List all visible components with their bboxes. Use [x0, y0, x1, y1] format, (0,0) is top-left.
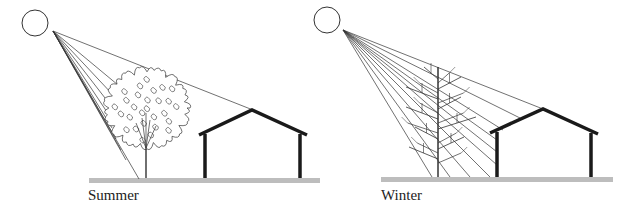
sun-rays — [343, 30, 543, 177]
twig — [461, 147, 467, 153]
branch — [438, 153, 461, 163]
house-roof — [199, 110, 307, 135]
sun-ray — [53, 31, 111, 118]
sun-ray — [343, 30, 543, 109]
twig — [464, 87, 470, 93]
sun-shading-diagram — [0, 0, 633, 213]
house-icon — [199, 110, 307, 178]
ground — [381, 177, 613, 182]
sun-ray — [343, 30, 450, 177]
summer-label: Summer — [88, 187, 139, 204]
sun-ray — [343, 30, 497, 152]
sun-ray — [343, 30, 490, 177]
sun-icon — [314, 7, 340, 33]
twig — [411, 137, 417, 143]
twig — [414, 97, 420, 103]
branch — [438, 113, 464, 123]
sun-ray — [343, 30, 470, 177]
twig — [414, 77, 420, 83]
winter-panel — [314, 7, 613, 182]
sun-ray — [343, 30, 503, 130]
tree-crown — [104, 67, 191, 150]
sun-ray — [53, 31, 114, 96]
sun-ray — [343, 30, 497, 165]
leafy-tree-icon — [104, 67, 191, 178]
house-roof — [490, 109, 598, 134]
sun-ray — [343, 30, 497, 140]
house-icon — [490, 109, 598, 177]
summer-panel — [22, 10, 320, 183]
sun-ray — [53, 31, 118, 85]
twig — [464, 107, 470, 113]
branch — [420, 103, 438, 113]
winter-label: Winter — [381, 187, 422, 204]
sun-icon — [22, 10, 48, 36]
ground — [89, 178, 320, 183]
twig — [449, 67, 455, 73]
